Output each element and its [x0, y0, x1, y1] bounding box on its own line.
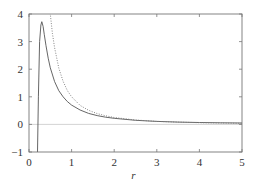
x-tick-label: 3 — [154, 156, 160, 168]
y-tick-label: −1 — [11, 146, 23, 158]
x-axis-label: r — [131, 169, 136, 181]
x-tick-label: 0 — [26, 156, 32, 168]
y-tick-label: 2 — [18, 63, 24, 75]
curves — [38, 6, 243, 152]
axis-ticks — [29, 14, 242, 152]
x-tick-labels: 012345 — [26, 156, 245, 168]
plot-frame — [29, 14, 242, 152]
y-tick-label: 0 — [18, 118, 24, 130]
solid-curve — [38, 22, 243, 152]
x-tick-label: 1 — [69, 156, 75, 168]
x-tick-label: 2 — [111, 156, 117, 168]
y-tick-label: 3 — [18, 36, 24, 48]
dotted-curve — [49, 6, 242, 124]
y-tick-label: 1 — [18, 91, 24, 103]
line-chart: 012345 −101234 r — [0, 0, 256, 184]
plot-area: 012345 −101234 r — [0, 0, 256, 184]
x-tick-label: 5 — [239, 156, 245, 168]
y-tick-labels: −101234 — [11, 8, 23, 158]
y-tick-label: 4 — [18, 8, 24, 20]
x-tick-label: 4 — [197, 156, 203, 168]
